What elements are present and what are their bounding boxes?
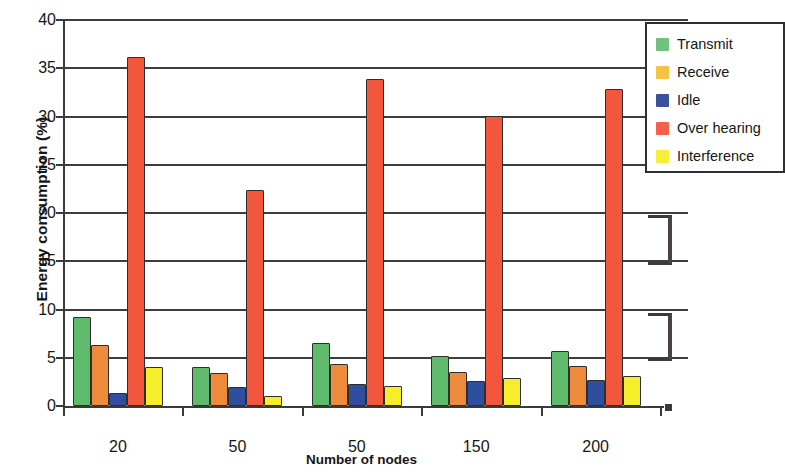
bar [192,367,210,406]
bar [467,381,485,406]
scan-artifact-bracket-upper [648,215,672,265]
bar [264,396,282,406]
bar [384,386,402,406]
y-tick-mark [56,212,64,214]
y-tick-mark [56,19,64,21]
bar [569,366,587,406]
legend-swatch-icon [656,38,669,51]
y-tick-label: 40 [14,12,56,28]
bar [449,372,467,406]
y-tick-mark [56,116,64,118]
legend-item: Interference [656,147,754,165]
y-axis-line [63,20,65,408]
legend-label: Transmit [677,37,733,52]
legend-label: Interference [677,149,754,164]
x-tick-mark [182,408,184,416]
legend-label: Idle [677,93,700,108]
bar [73,317,91,406]
x-tick-label: 150 [431,438,521,456]
x-axis-line [63,406,664,408]
gridline-overshoot [660,309,688,311]
x-tick-label: 50 [192,438,282,456]
y-tick-label: 25 [14,157,56,173]
bar [145,367,163,406]
legend-item: Receive [656,63,729,81]
x-tick-mark [541,408,543,416]
bar [431,356,449,406]
bar [330,364,348,406]
legend-swatch-icon [656,150,669,163]
legend-item: Idle [656,91,700,109]
x-tick-label: 200 [551,438,641,456]
bar [366,79,384,406]
bar [109,393,127,406]
y-tick-label: 20 [14,205,56,221]
gridline-overshoot [660,19,688,21]
y-tick-mark [56,260,64,262]
gridline [63,116,660,118]
bar [228,387,246,406]
scan-artifact-bracket-lower [648,313,672,361]
bar [605,89,623,406]
bar [312,343,330,406]
bar [503,378,521,406]
legend-label: Receive [677,65,729,80]
gridline [63,260,660,262]
legend-swatch-icon [656,66,669,79]
gridline [63,212,660,214]
bar [348,384,366,406]
y-tick-mark [56,164,64,166]
y-tick-label: 10 [14,302,56,318]
gridline [63,357,660,359]
legend-swatch-icon [656,122,669,135]
y-tick-label: 30 [14,109,56,125]
bar [91,345,109,406]
gridline-overshoot [660,212,688,214]
gridline [63,19,660,21]
y-tick-label: 35 [14,60,56,76]
x-tick-label: 50 [312,438,402,456]
y-tick-mark [56,67,64,69]
x-tick-label: 20 [73,438,163,456]
y-tick-label: 5 [14,350,56,366]
bar [246,190,264,406]
legend: TransmitReceiveIdleOver hearingInterfere… [645,22,785,173]
bar [485,116,503,406]
gridline [63,67,660,69]
bar [127,57,145,406]
bar [587,380,605,406]
y-tick-mark [56,309,64,311]
legend-item: Over hearing [656,119,761,137]
legend-item: Transmit [656,35,733,53]
y-tick-label: 15 [14,253,56,269]
scan-artifact-mark [665,404,672,411]
bar [210,373,228,406]
bar [551,351,569,406]
plot-area: 205050150200 [63,20,660,408]
bar [623,376,641,406]
y-tick-mark [56,357,64,359]
x-tick-mark [302,408,304,416]
y-tick-mark [56,405,64,407]
gridline [63,309,660,311]
legend-label: Over hearing [677,121,761,136]
x-tick-mark [421,408,423,416]
x-tick-mark [63,408,65,416]
y-tick-label: 0 [14,398,56,414]
legend-swatch-icon [656,94,669,107]
gridline [63,164,660,166]
x-tick-mark [660,408,662,416]
